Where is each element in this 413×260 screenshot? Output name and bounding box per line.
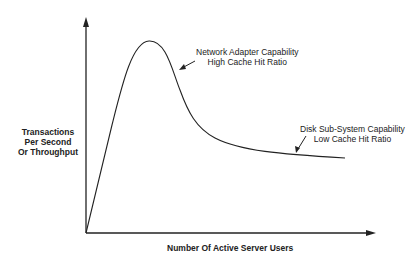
disk-annotation-line2: Low Cache Hit Ratio [300, 134, 405, 144]
network-annotation-line1: Network Adapter Capability [196, 47, 299, 57]
y-axis-arrow-icon [83, 17, 89, 27]
disk-annotation: Disk Sub-System Capability Low Cache Hit… [300, 124, 405, 144]
network-annotation: Network Adapter Capability High Cache Hi… [196, 47, 299, 67]
y-axis-label-line2: Per Second [18, 137, 78, 147]
y-axis-label-line3: Or Throughput [18, 147, 78, 157]
y-axis-label-line1: Transactions [18, 127, 78, 137]
network-annotation-line2: High Cache Hit Ratio [196, 57, 299, 67]
y-axis-label: Transactions Per Second Or Throughput [18, 127, 78, 157]
x-axis-label: Number Of Active Server Users [167, 243, 293, 253]
disk-annotation-line1: Disk Sub-System Capability [300, 124, 405, 134]
x-axis-arrow-icon [366, 230, 376, 236]
network-arrow-icon [179, 64, 186, 70]
